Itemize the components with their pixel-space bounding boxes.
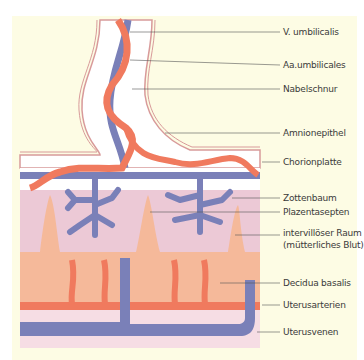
label-zottenbaum: Zottenbaum: [283, 193, 337, 203]
label-intervilloeser-raum: intervillöser Raum: [283, 228, 362, 238]
label-plazentasepten: Plazentasepten: [283, 207, 349, 217]
label-nabelschnur: Nabelschnur: [283, 84, 337, 94]
umbilical-cord: [20, 20, 260, 168]
label-aa-umbilicales: Aa.umbilicales: [283, 60, 346, 70]
label-uterusvenen: Uterusvenen: [283, 327, 338, 337]
label-amnionepithel: Amnionepithel: [283, 128, 346, 138]
label-chorionplatte: Chorionplatte: [283, 157, 342, 167]
label-uterusarterien: Uterusarterien: [283, 300, 346, 310]
uterine-artery-layer: [20, 302, 260, 310]
label-decidua-basalis: Decidua basalis: [283, 278, 351, 288]
label-v-umbilicalis: V. umbilicalis: [283, 27, 339, 37]
label-muetterliches-blut: (mütterliches Blut): [283, 240, 364, 250]
